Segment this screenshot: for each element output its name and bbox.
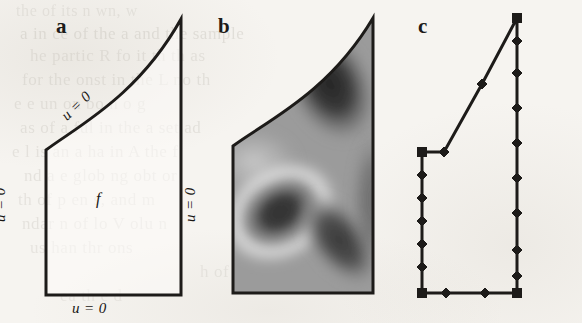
mesh-node-right-edge [512,103,522,113]
mesh-node-bottom-edge [480,288,490,298]
mesh-node-right-edge [512,208,522,218]
mesh-node-right-edge [512,68,522,78]
panel-c-drawing [382,0,582,323]
mesh-node-corner [512,13,522,23]
mesh-node-left-edge [417,170,427,180]
bc-label-bottom-a: u = 0 [72,300,107,317]
panel-label-c: c [418,14,427,39]
mesh-node-corner [417,288,427,298]
figure-root: the of its n wn, wa in ce of the a and t… [0,0,582,323]
bc-label-left-a: u = 0 [0,187,9,222]
panel-label-a: a [56,14,67,39]
mesh-node-right-edge [512,138,522,148]
mesh-node-left-edge [417,216,427,226]
panel-b: b [196,0,382,323]
panel-b-drawing [196,0,392,323]
mesh-node-left-edge [417,193,427,203]
mesh-node-corner [512,288,522,298]
domain-outline-a [46,19,181,295]
mesh-node-right-edge [512,271,522,281]
mesh-node-right-edge [512,173,522,183]
panel-a: a u = 0 u = 0 u = 0 u = 0 f [0,0,196,323]
mesh-node-right-edge [512,36,522,46]
discretized-outline-c [422,18,517,293]
heatmap-field-b [201,10,395,305]
mesh-node-bottom-edge [441,288,451,298]
mesh-node-left-edge [417,239,427,249]
panel-a-drawing [0,0,196,323]
mesh-node-corner [417,147,427,157]
source-term-label-f: f [96,190,100,208]
panel-c: c [382,0,582,323]
mesh-node-left-edge [417,262,427,272]
mesh-node-group [417,13,522,298]
panel-label-b: b [218,14,230,39]
mesh-node-right-edge [512,245,522,255]
